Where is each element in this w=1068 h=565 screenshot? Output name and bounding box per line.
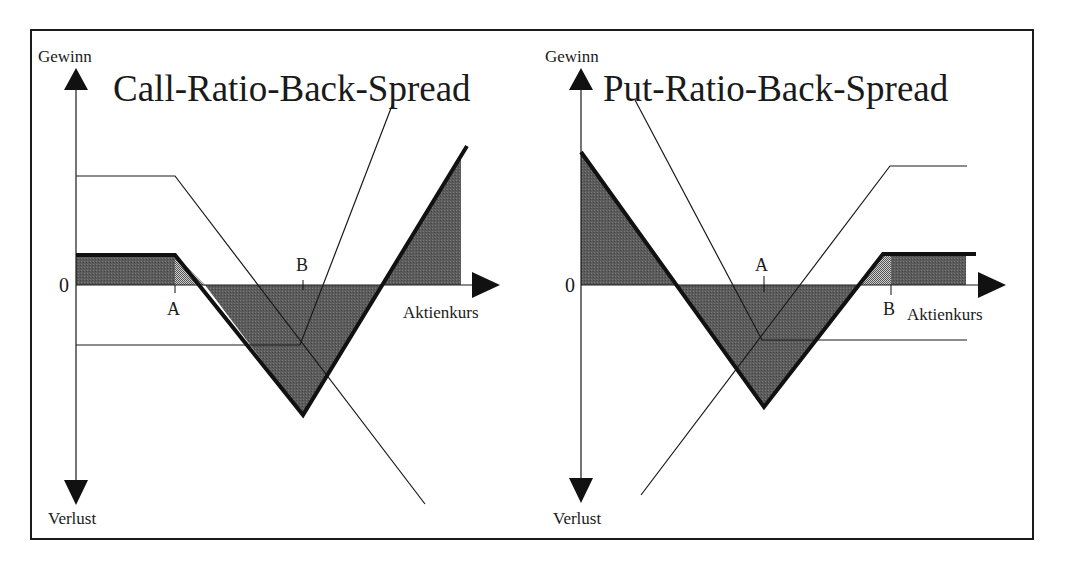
chart-title: Put-Ratio-Back-Spread	[603, 68, 949, 109]
zero-label: 0	[59, 274, 69, 296]
strike-label-a: A	[167, 299, 180, 319]
x-axis-label: Aktienkurs	[907, 305, 983, 324]
strike-label-b: B	[296, 255, 308, 275]
y-axis-top-label: Gewinn	[545, 47, 599, 66]
arrow-right-icon	[472, 272, 500, 298]
y-axis-bottom-label: Verlust	[553, 509, 601, 528]
loss-area	[205, 285, 381, 415]
strike-label-a: A	[755, 255, 768, 275]
loss-area	[676, 285, 858, 407]
profit-area-left	[76, 255, 175, 285]
y-axis-bottom-label: Verlust	[48, 509, 96, 528]
arrow-right-icon	[978, 272, 1006, 298]
strike-label-b: B	[883, 299, 895, 319]
arrow-up-icon	[64, 68, 88, 90]
arrow-up-icon	[569, 68, 593, 90]
chart-title: Call-Ratio-Back-Spread	[113, 68, 471, 109]
arrow-down-icon	[569, 478, 593, 503]
arrow-down-icon	[64, 480, 88, 505]
x-axis-label: Aktienkurs	[403, 303, 479, 322]
y-axis-top-label: Gewinn	[38, 47, 92, 66]
zero-label: 0	[565, 274, 575, 296]
chart-call-ratio-back-spread: Gewinn Verlust Call-Ratio-Back-Spread 0 …	[38, 47, 500, 528]
profit-area-right	[891, 254, 966, 285]
diagram-canvas: Gewinn Verlust Call-Ratio-Back-Spread 0 …	[0, 0, 1068, 565]
chart-put-ratio-back-spread: Gewinn Verlust Put-Ratio-Back-Spread 0 A…	[545, 47, 1006, 528]
